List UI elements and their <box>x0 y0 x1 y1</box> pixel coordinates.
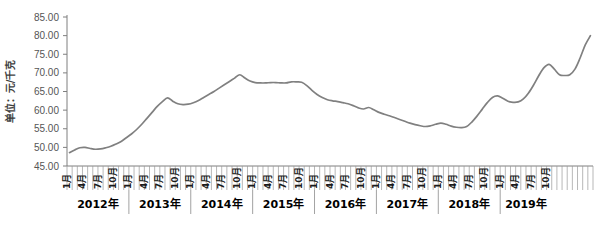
x-axis-month-label: 4月 <box>325 174 335 189</box>
x-axis-year-labels: 2012年2013年2014年2015年2016年2017年2018年2019年 <box>77 190 547 214</box>
y-tick-label: 70.00 <box>34 67 59 78</box>
x-axis-month-label: 10月 <box>108 167 118 189</box>
x-axis-month-label: 4月 <box>510 174 520 189</box>
y-axis-title: 单位：元/千克 <box>4 60 16 124</box>
line-chart: 单位：元/千克 45.0050.0055.0060.0065.0070.0075… <box>0 0 601 229</box>
x-axis-month-label: 10月 <box>294 167 304 189</box>
y-tick-label: 60.00 <box>34 105 59 116</box>
x-axis-month-label: 1月 <box>123 174 133 189</box>
chart-axes <box>67 15 593 166</box>
x-axis-month-label: 1月 <box>433 174 443 189</box>
x-axis-month-label: 10月 <box>417 167 427 189</box>
x-axis-month-label: 4月 <box>77 174 87 189</box>
x-axis-month-label: 4月 <box>201 174 211 189</box>
x-axis-year-label: 2016年 <box>325 197 367 211</box>
x-axis-month-label: 7月 <box>526 174 536 189</box>
x-axis-month-label: 7月 <box>402 174 412 189</box>
x-axis-month-label: 1月 <box>185 174 195 189</box>
x-axis-month-label: 4月 <box>386 174 396 189</box>
y-axis-ticks: 45.0050.0055.0060.0065.0070.0075.0080.00… <box>34 12 67 172</box>
x-axis-year-label: 2018年 <box>448 197 490 211</box>
x-axis-month-labels: 1月4月7月10月1月4月7月10月1月4月7月10月1月4月7月10月1月4月… <box>62 167 552 189</box>
x-axis-year-label: 2017年 <box>387 197 429 211</box>
x-axis-month-label: 1月 <box>309 174 319 189</box>
y-tick-label: 65.00 <box>34 86 59 97</box>
x-axis-month-label: 7月 <box>464 174 474 189</box>
x-axis-year-label: 2013年 <box>139 197 181 211</box>
x-axis-year-label: 2014年 <box>201 197 243 211</box>
x-axis-year-label: 2015年 <box>263 197 305 211</box>
x-axis-month-label: 4月 <box>263 174 273 189</box>
x-axis-month-label: 1月 <box>62 174 72 189</box>
x-axis-month-label: 1月 <box>371 174 381 189</box>
x-axis-month-label: 4月 <box>139 174 149 189</box>
y-tick-label: 55.00 <box>34 123 59 134</box>
x-axis-month-label: 7月 <box>93 174 103 189</box>
x-axis-month-label: 10月 <box>356 167 366 189</box>
x-axis-year-label: 2019年 <box>505 197 547 211</box>
chart-figure: 单位：元/千克 45.0050.0055.0060.0065.0070.0075… <box>0 0 601 229</box>
x-axis-month-label: 7月 <box>216 174 226 189</box>
y-axis-title-text: 单位：元/千克 <box>4 60 16 124</box>
price-line-series <box>70 36 591 153</box>
x-axis-month-label: 7月 <box>278 174 288 189</box>
x-axis-month-label: 10月 <box>479 167 489 189</box>
x-axis-year-label: 2012年 <box>77 197 119 211</box>
x-axis-month-label: 10月 <box>232 167 242 189</box>
x-axis-month-label: 4月 <box>448 174 458 189</box>
y-tick-label: 85.00 <box>34 12 59 23</box>
y-tick-label: 45.00 <box>34 161 59 172</box>
y-tick-label: 75.00 <box>34 49 59 60</box>
x-axis-month-label: 7月 <box>154 174 164 189</box>
x-axis-month-label: 10月 <box>170 167 180 189</box>
x-axis-month-label: 7月 <box>340 174 350 189</box>
price-line-path <box>70 36 591 153</box>
x-axis-month-label: 1月 <box>247 174 257 189</box>
y-tick-label: 80.00 <box>34 30 59 41</box>
y-tick-label: 50.00 <box>34 142 59 153</box>
x-axis-month-label: 10月 <box>541 167 551 189</box>
x-axis-month-label: 1月 <box>495 174 505 189</box>
